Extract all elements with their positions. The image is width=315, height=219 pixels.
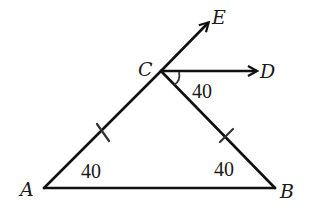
- label-e: E: [211, 6, 226, 28]
- segment-ac: [44, 71, 161, 188]
- label-b: B: [279, 180, 294, 202]
- angle-arc-dcb: [174, 72, 179, 85]
- label-c: C: [138, 58, 153, 80]
- angle-a-value: 40: [81, 160, 101, 182]
- ray-ce: [161, 23, 208, 71]
- label-d: D: [259, 60, 275, 82]
- angle-dcb-value: 40: [192, 80, 212, 102]
- geometry-diagram: A B C D E 40 40 40: [0, 0, 315, 219]
- angle-b-value: 40: [214, 158, 234, 180]
- label-a: A: [18, 178, 34, 200]
